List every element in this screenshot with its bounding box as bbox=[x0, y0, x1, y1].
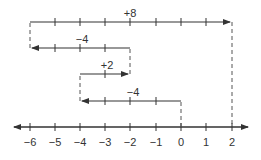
main-number-line: −6 −5 −4 −3 −2 −1 0 1 2 bbox=[14, 123, 248, 148]
step-1-arrow: −4 bbox=[82, 86, 181, 127]
tick-label: −1 bbox=[150, 136, 163, 148]
step-3-arrow: −4 bbox=[32, 33, 130, 74]
step-4-arrow: +8 bbox=[30, 7, 232, 127]
tick-label: −5 bbox=[49, 136, 62, 148]
step-label: +2 bbox=[101, 59, 114, 71]
step-label: +8 bbox=[124, 7, 137, 19]
number-line-diagram: −6 −5 −4 −3 −2 −1 0 1 2 −4 +2 bbox=[0, 0, 261, 160]
step-label: −4 bbox=[76, 33, 89, 45]
tick-label: −4 bbox=[74, 136, 87, 148]
diagram-svg: −6 −5 −4 −3 −2 −1 0 1 2 −4 +2 bbox=[0, 0, 261, 160]
tick-label: 0 bbox=[178, 136, 184, 148]
step-label: −4 bbox=[127, 86, 140, 98]
tick-label: 1 bbox=[203, 136, 209, 148]
tick-label: 2 bbox=[229, 136, 235, 148]
tick-label: −3 bbox=[99, 136, 112, 148]
tick-label: −2 bbox=[124, 136, 137, 148]
step-2-arrow: +2 bbox=[80, 59, 128, 101]
tick-label: −6 bbox=[24, 136, 37, 148]
